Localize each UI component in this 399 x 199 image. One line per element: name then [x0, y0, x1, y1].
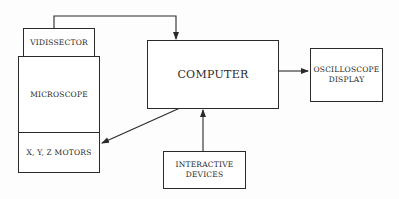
oscilloscope-label-line2: DISPLAY	[329, 75, 365, 85]
microscope-label: MICROSCOPE	[30, 90, 88, 100]
interactive-label-line1: INTERACTIVE	[176, 160, 234, 170]
motors-label: X, Y, Z MOTORS	[26, 148, 91, 158]
oscilloscope-box: OSCILLOSCOPE DISPLAY	[310, 48, 383, 102]
microscope-box: MICROSCOPE	[18, 56, 100, 133]
vidissector-box: VIDISSECTOR	[23, 28, 95, 57]
edge-computer-to-motors	[102, 108, 180, 143]
computer-label: COMPUTER	[177, 68, 248, 81]
motors-box: X, Y, Z MOTORS	[18, 132, 100, 173]
interactive-label-line2: DEVICES	[186, 170, 224, 180]
block-diagram: VIDISSECTOR MICROSCOPE X, Y, Z MOTORS CO…	[0, 0, 399, 199]
interactive-box: INTERACTIVE DEVICES	[163, 151, 246, 189]
oscilloscope-label-line1: OSCILLOSCOPE	[313, 65, 379, 75]
vidissector-label: VIDISSECTOR	[30, 38, 88, 48]
computer-box: COMPUTER	[147, 40, 279, 109]
